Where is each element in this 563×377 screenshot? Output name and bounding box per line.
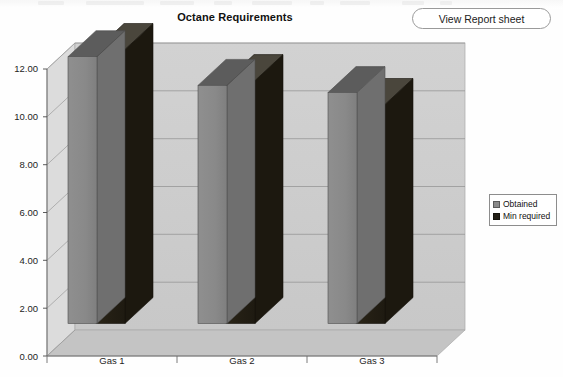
y-axis-tick-label: 10.00	[2, 111, 38, 122]
y-axis-ticks	[43, 69, 47, 356]
bar-gas1-obtained	[68, 31, 125, 324]
x-axis-category-label: Gas 2	[207, 355, 277, 366]
chart-screenshot: Octane Requirements View Report sheet	[0, 0, 563, 377]
y-axis-tick-label: 4.00	[2, 255, 38, 266]
legend-swatch-obtained	[493, 201, 500, 208]
legend-item-obtained: Obtained	[493, 198, 553, 210]
floor	[47, 330, 465, 356]
x-axis-category-label: Gas 3	[337, 355, 407, 366]
y-axis-tick-label: 6.00	[2, 207, 38, 218]
legend-label-obtained: Obtained	[503, 199, 538, 209]
y-axis-tick-label: 8.00	[2, 159, 38, 170]
bar-gas2-obtained	[198, 59, 255, 323]
legend-swatch-min-required	[493, 213, 500, 220]
chart-plot-area	[0, 0, 563, 377]
y-axis-tick-label: 2.00	[2, 303, 38, 314]
chart-legend: Obtained Min required	[489, 194, 557, 226]
bar-gas3-obtained	[328, 67, 385, 324]
legend-item-min-required: Min required	[493, 210, 553, 222]
x-axis-category-label: Gas 1	[77, 355, 147, 366]
y-axis-tick-label: 12.00	[2, 63, 38, 74]
chart-svg	[0, 0, 563, 377]
legend-label-min-required: Min required	[503, 211, 550, 221]
y-axis-tick-label: 0.00	[2, 351, 38, 362]
